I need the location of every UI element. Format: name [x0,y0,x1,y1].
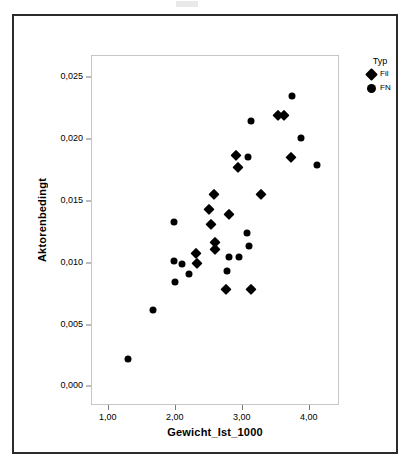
x-tick-label: 3,00 [233,412,251,423]
data-point-fn [179,261,186,268]
x-tick-label: 4,00 [300,412,318,423]
legend-label: FN [380,83,391,93]
data-point-fil [209,189,220,200]
legend-entry: Fil [359,67,411,81]
data-point-fil [223,209,234,220]
data-point-fil [205,219,216,230]
data-point-fil [210,244,221,255]
data-point-fil [279,109,290,120]
data-point-fn [247,117,254,124]
legend-label: Fil [380,69,388,79]
data-point-fil [286,151,297,162]
y-tick-label: 0,025 [60,71,83,82]
data-point-fil [246,283,257,294]
chart-figure-frame: Aktorenbedingt 0,0000,0050,0100,0150,020… [12,14,398,454]
data-point-fn [149,306,156,313]
y-tick-label: 0,020 [60,133,83,144]
data-point-fil [233,162,244,173]
data-point-fn [171,257,178,264]
legend-entry: FN [359,81,411,95]
scatter-data-area [92,56,338,404]
data-point-fn [225,253,232,260]
y-tick-label: 0,005 [60,318,83,329]
scan-artifact [176,1,198,7]
data-point-fn [235,253,242,260]
legend-circle-icon [367,84,376,93]
x-tick-label: 2,00 [166,412,184,423]
x-tick-mark [175,405,176,410]
y-tick-label: 0,010 [60,256,83,267]
data-point-fil [204,204,215,215]
data-point-fil [192,257,203,268]
y-tick-label: 0,000 [60,380,83,391]
y-tick-label: 0,015 [60,194,83,205]
data-point-fn [245,153,252,160]
data-point-fil [231,150,242,161]
data-point-fn [125,356,132,363]
plot-panel [91,55,339,405]
data-point-fil [191,247,202,258]
legend-entries: FilFN [359,67,411,95]
x-tick-mark [242,405,243,410]
data-point-fn [172,279,179,286]
legend-diamond-icon [365,68,378,81]
x-tick-mark [309,405,310,410]
data-point-fn [170,218,177,225]
y-axis: 0,0000,0050,0100,0150,0200,025 [14,16,91,452]
data-point-fn [186,271,193,278]
data-point-fn [288,93,295,100]
data-point-fn [245,242,252,249]
data-point-fn [223,267,230,274]
data-point-fn [243,229,250,236]
x-tick-mark [108,405,109,410]
data-point-fn [314,162,321,169]
data-point-fn [298,135,305,142]
data-point-fil [221,283,232,294]
legend: Typ FilFN [359,56,411,95]
x-axis-title: Gewicht_Ist_1000 [91,426,339,438]
legend-title: Typ [363,56,397,67]
data-point-fil [256,189,267,200]
x-tick-label: 1,00 [99,412,117,423]
